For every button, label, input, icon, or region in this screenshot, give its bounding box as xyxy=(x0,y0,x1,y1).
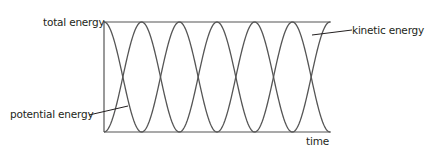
potential-energy-label: potential energy xyxy=(10,108,93,120)
axes xyxy=(104,21,331,132)
kinetic-energy-label: kinetic energy xyxy=(352,24,424,36)
total-energy-label: total energy xyxy=(43,16,105,28)
kinetic-energy-leader xyxy=(312,30,352,35)
kinetic-energy-curve xyxy=(104,22,330,132)
potential-energy-curve xyxy=(104,22,330,132)
time-axis-label: time xyxy=(306,135,329,147)
potential-energy-leader xyxy=(89,106,128,115)
